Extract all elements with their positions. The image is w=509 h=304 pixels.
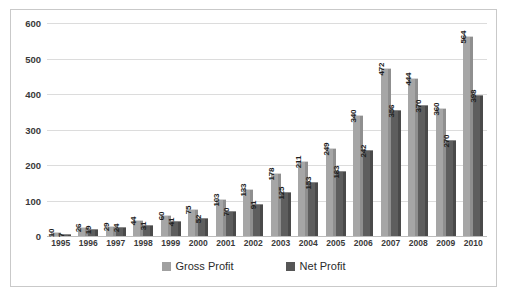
bar-gross-profit-2007[interactable]: 472 [381,68,391,236]
bar-value-label: 29 [102,222,111,231]
bar-net-profit-1996[interactable]: 19 [88,229,98,236]
bar-group-2003: 178125 [267,23,295,236]
bar-value-label: 398 [469,89,478,102]
bar-net-profit-2002[interactable]: 91 [253,204,263,236]
bar-value-label: 44 [129,217,138,226]
bar-value-label: 24 [112,224,121,233]
x-axis-tick-2000: 2000 [185,238,213,252]
bar-value-label: 125 [277,186,286,199]
bar-value-label: 211 [294,156,303,168]
x-axis-tick-1995: 1995 [47,238,75,252]
bar-gross-profit-2002[interactable]: 133 [243,189,253,236]
bar-group-1997: 2924 [102,23,130,236]
x-axis-tick-2010: 2010 [460,238,488,252]
legend-item-gross[interactable]: Gross Profit [162,260,234,272]
bar-value-label: 270 [442,135,451,148]
bar-gross-profit-2003[interactable]: 178 [271,173,281,236]
bar-group-1999: 6041 [157,23,185,236]
legend-item-net[interactable]: Net Profit [286,260,346,272]
bar-gross-profit-2010[interactable]: 564 [463,36,473,236]
y-axis-tick-100: 100 [25,195,41,206]
bar-value-label: 26 [74,224,83,233]
bar-group-2010: 564398 [460,23,488,236]
bar-value-label: 472 [377,63,386,76]
bar-group-2007: 472356 [377,23,405,236]
x-axis-tick-2007: 2007 [377,238,405,252]
bar-group-2008: 444370 [405,23,433,236]
gridline-0 [47,236,487,237]
bar-net-profit-1995[interactable]: 7 [61,234,71,236]
bar-value-label: 41 [167,218,176,227]
bar-net-profit-2008[interactable]: 370 [418,105,428,236]
bar-group-2006: 340242 [350,23,378,236]
bar-gross-profit-2009[interactable]: 360 [436,108,446,236]
x-axis: 1995199619971998199920002001200220032004… [47,238,487,252]
bar-value-label: 75 [184,206,193,215]
bar-value-label: 249 [322,142,331,155]
bar-value-label: 183 [332,166,341,179]
bar-net-profit-1998[interactable]: 31 [143,225,153,236]
bar-value-label: 91 [249,200,258,209]
bar-group-2005: 249183 [322,23,350,236]
bar-group-1996: 2619 [75,23,103,236]
bar-gross-profit-2006[interactable]: 340 [353,115,363,236]
x-axis-tick-2003: 2003 [267,238,295,252]
x-axis-tick-2009: 2009 [432,238,460,252]
y-axis-tick-0: 0 [36,231,41,242]
plot-area: 6005004003002001000 10726192924443160417… [47,23,487,236]
bar-value-label: 370 [414,99,423,112]
legend-swatch-icon [162,262,171,271]
bar-net-profit-2010[interactable]: 398 [473,95,483,236]
x-axis-tick-2002: 2002 [240,238,268,252]
bar-value-label: 242 [359,145,368,158]
bar-net-profit-2009[interactable]: 270 [446,140,456,236]
x-axis-tick-2004: 2004 [295,238,323,252]
legend-label: Gross Profit [176,260,234,272]
bar-value-label: 70 [222,208,231,217]
bar-value-label: 133 [239,183,248,196]
x-axis-tick-1997: 1997 [102,238,130,252]
y-axis-tick-600: 600 [25,18,41,29]
bar-value-label: 10 [47,229,56,238]
legend-label: Net Profit [300,260,346,272]
x-axis-tick-1998: 1998 [130,238,158,252]
bar-groups: 1072619292444316041755210370133911781252… [47,23,487,236]
bar-net-profit-1997[interactable]: 24 [116,227,126,236]
bar-gross-profit-2005[interactable]: 249 [326,148,336,236]
legend-swatch-icon [286,262,295,271]
bar-value-label: 178 [267,167,276,180]
bar-value-label: 444 [404,73,413,86]
bar-gross-profit-2004[interactable]: 211 [298,161,308,236]
bar-group-2009: 360270 [432,23,460,236]
x-axis-tick-2001: 2001 [212,238,240,252]
bar-net-profit-2005[interactable]: 183 [336,171,346,236]
bar-value-label: 153 [304,176,313,189]
bar-group-1995: 107 [47,23,75,236]
bar-net-profit-2007[interactable]: 356 [391,110,401,236]
bar-net-profit-2003[interactable]: 125 [281,192,291,236]
bar-value-label: 31 [139,222,148,231]
bar-net-profit-2001[interactable]: 70 [226,211,236,236]
bar-group-1998: 4431 [130,23,158,236]
x-axis-tick-2008: 2008 [405,238,433,252]
bar-value-label: 19 [84,226,93,235]
bar-net-profit-2004[interactable]: 153 [308,182,318,236]
bar-gross-profit-2001[interactable]: 103 [216,199,226,236]
y-axis-tick-500: 500 [25,53,41,64]
y-axis-tick-200: 200 [25,160,41,171]
x-axis-tick-2006: 2006 [350,238,378,252]
bar-net-profit-2006[interactable]: 242 [363,150,373,236]
bar-group-2001: 10370 [212,23,240,236]
y-axis-tick-400: 400 [25,89,41,100]
chart-frame: 6005004003002001000 10726192924443160417… [10,9,497,287]
y-axis-tick-300: 300 [25,124,41,135]
bar-value-label: 60 [157,211,166,220]
bar-group-2000: 7552 [185,23,213,236]
chart-legend: Gross ProfitNet Profit [11,260,496,272]
bar-group-2002: 13391 [240,23,268,236]
bar-value-label: 340 [349,110,358,123]
bar-net-profit-2000[interactable]: 52 [198,218,208,236]
bar-net-profit-1999[interactable]: 41 [171,221,181,236]
bar-value-label: 52 [194,214,203,223]
x-axis-tick-1996: 1996 [75,238,103,252]
